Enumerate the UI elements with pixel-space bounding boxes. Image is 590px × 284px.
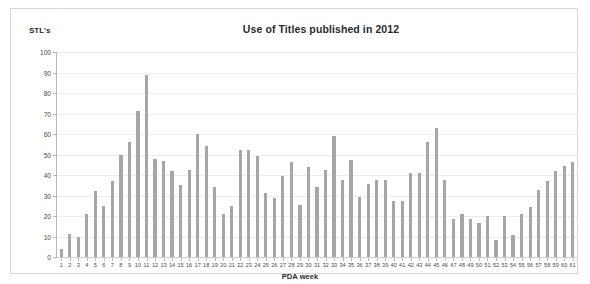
x-tick-mark: [496, 258, 497, 261]
bar: [452, 219, 455, 257]
y-tick-label: 60: [17, 131, 51, 138]
bar: [153, 159, 156, 257]
y-tick-label: 30: [17, 192, 51, 199]
bar: [230, 206, 233, 257]
y-tick-mark-100: [53, 52, 56, 53]
x-tick-mark: [291, 258, 292, 261]
x-tick-mark: [402, 258, 403, 261]
bar: [384, 180, 387, 257]
x-tick-mark: [522, 258, 523, 261]
x-tick-mark: [274, 258, 275, 261]
x-tick-mark: [198, 258, 199, 261]
x-tick-mark: [215, 258, 216, 261]
plot-area: [57, 52, 577, 257]
bar: [418, 173, 421, 257]
bar: [239, 150, 242, 257]
x-tick-mark: [530, 258, 531, 261]
chart-frame: STL's Use of Titles published in 2012 01…: [10, 8, 578, 274]
x-axis-title: PDA week: [11, 272, 589, 281]
bar: [213, 187, 216, 257]
x-tick-mark: [61, 258, 62, 261]
x-tick-mark: [121, 258, 122, 261]
x-tick-mark: [462, 258, 463, 261]
x-tick-mark: [326, 258, 327, 261]
y-tick-label: 0: [17, 254, 51, 261]
x-tick-mark: [487, 258, 488, 261]
x-tick-mark: [385, 258, 386, 261]
y-axis-title: STL's: [29, 26, 50, 35]
y-tick-label: 70: [17, 110, 51, 117]
bar: [77, 237, 80, 258]
x-tick-mark: [95, 258, 96, 261]
y-tick-mark-70: [53, 114, 56, 115]
x-tick-mark: [419, 258, 420, 261]
bar: [529, 207, 532, 257]
bar: [341, 180, 344, 257]
x-tick-mark: [360, 258, 361, 261]
bar: [111, 181, 114, 257]
bar: [426, 142, 429, 257]
x-tick-mark: [155, 258, 156, 261]
y-tick-label: 10: [17, 233, 51, 240]
bar: [563, 166, 566, 257]
bar: [435, 128, 438, 257]
x-tick-mark: [377, 258, 378, 261]
y-tick-label: 100: [17, 49, 51, 56]
x-tick-mark: [479, 258, 480, 261]
bar: [546, 181, 549, 257]
bar: [247, 150, 250, 257]
bar: [273, 198, 276, 257]
y-tick-label: 40: [17, 172, 51, 179]
bar: [136, 111, 139, 257]
x-tick-mark: [223, 258, 224, 261]
x-tick-mark: [411, 258, 412, 261]
x-tick-mark: [513, 258, 514, 261]
x-tick-mark: [129, 258, 130, 261]
bar: [503, 216, 506, 257]
y-tick-mark-20: [53, 216, 56, 217]
bar: [94, 191, 97, 257]
x-tick-mark: [249, 258, 250, 261]
x-tick-mark: [164, 258, 165, 261]
bar: [460, 214, 463, 257]
x-tick-mark: [240, 258, 241, 261]
x-tick-mark: [317, 258, 318, 261]
x-tick-mark: [232, 258, 233, 261]
x-tick-mark: [539, 258, 540, 261]
x-tick-mark: [573, 258, 574, 261]
x-tick-mark: [189, 258, 190, 261]
bar: [298, 205, 301, 257]
bar: [85, 214, 88, 257]
bar: [179, 185, 182, 257]
x-tick-mark: [257, 258, 258, 261]
bar: [349, 160, 352, 257]
x-tick-mark: [368, 258, 369, 261]
bar: [281, 176, 284, 257]
bar: [392, 201, 395, 257]
bar: [443, 180, 446, 257]
bar: [119, 155, 122, 258]
x-tick-mark: [453, 258, 454, 261]
bar: [68, 234, 71, 257]
bar: [537, 190, 540, 257]
x-tick-mark: [112, 258, 113, 261]
y-tick-mark-30: [53, 196, 56, 197]
y-tick-mark-10: [53, 237, 56, 238]
bar: [307, 167, 310, 257]
bar: [196, 134, 199, 257]
y-tick-mark-80: [53, 93, 56, 94]
bar: [571, 162, 574, 257]
x-tick-mark: [547, 258, 548, 261]
x-tick-mark: [138, 258, 139, 261]
bar: [375, 180, 378, 257]
x-tick-mark: [308, 258, 309, 261]
x-tick-mark: [564, 258, 565, 261]
x-tick-mark: [334, 258, 335, 261]
bar: [520, 214, 523, 257]
y-tick-mark-40: [53, 175, 56, 176]
bar: [324, 170, 327, 257]
x-tick-mark: [70, 258, 71, 261]
bar: [170, 171, 173, 257]
bar: [256, 156, 259, 257]
x-tick-mark: [147, 258, 148, 261]
